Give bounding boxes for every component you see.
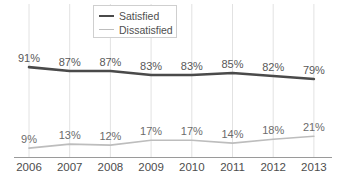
data-label: 82% <box>260 61 286 73</box>
x-axis-tick-label: 2007 <box>54 161 86 173</box>
x-axis-tick-label: 2012 <box>257 161 289 173</box>
line-swatch-icon <box>99 29 114 30</box>
data-label: 91% <box>16 52 42 64</box>
data-label: 18% <box>260 124 286 136</box>
legend-label-satisfied: Satisfied <box>119 10 159 22</box>
data-label: 87% <box>97 56 123 68</box>
data-label: 13% <box>57 129 83 141</box>
data-label: 85% <box>220 58 246 70</box>
data-label: 79% <box>301 64 327 76</box>
data-label: 14% <box>220 128 246 140</box>
legend-entry-satisfied: Satisfied <box>99 9 172 22</box>
chart-legend: Satisfied Dissatisfied <box>93 5 177 38</box>
x-axis-tick-label: 2006 <box>13 161 45 173</box>
legend-label-dissatisfied: Dissatisfied <box>119 24 173 36</box>
data-label: 17% <box>179 125 205 137</box>
data-label: 87% <box>57 56 83 68</box>
data-label: 83% <box>138 60 164 72</box>
data-label: 17% <box>138 125 164 137</box>
data-label: 12% <box>97 130 123 142</box>
line-swatch-icon <box>99 15 114 17</box>
data-label: 9% <box>16 133 42 145</box>
x-axis-tick-label: 2013 <box>298 161 330 173</box>
x-axis-tick-label: 2009 <box>135 161 167 173</box>
x-axis-tick-label: 2010 <box>176 161 208 173</box>
x-axis-tick-label: 2011 <box>217 161 249 173</box>
data-label: 83% <box>179 60 205 72</box>
data-label: 21% <box>301 121 327 133</box>
legend-entry-dissatisfied: Dissatisfied <box>99 23 172 36</box>
line-chart: 91%87%87%83%83%85%82%79% 9%13%12%17%17%1… <box>0 0 340 181</box>
x-axis-tick-label: 2008 <box>94 161 126 173</box>
